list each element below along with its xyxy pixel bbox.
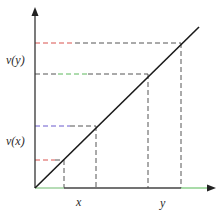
label-vx: v(x) (6, 134, 25, 148)
horizontal-projections (35, 43, 181, 160)
label-vy: v(y) (6, 53, 25, 67)
y-axis-arrow-icon (32, 7, 39, 16)
function-diagram: v(y) v(x) x y (0, 0, 222, 217)
label-y: y (159, 196, 166, 210)
label-x: x (75, 195, 82, 209)
function-line-v (35, 27, 199, 188)
vertical-projections (64, 43, 181, 188)
x-axis-arrow-icon (207, 185, 216, 192)
